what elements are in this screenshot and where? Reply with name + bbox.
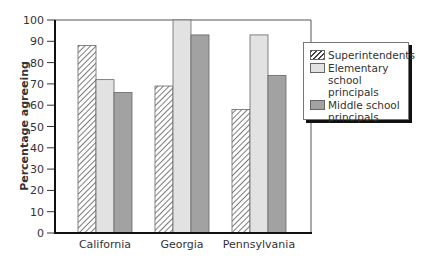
- legend-item-superintendents: Superintendents: [310, 49, 408, 61]
- bar-middle-school-principals-georgia: [191, 35, 209, 233]
- hatched-swatch-icon: [310, 50, 325, 60]
- bar-elementary-school-principals-california: [96, 80, 114, 233]
- bar-elementary-school-principals-georgia: [173, 20, 191, 233]
- dark-gray-swatch-icon: [310, 100, 325, 110]
- light-gray-swatch-icon: [310, 63, 325, 73]
- legend-label: Superintendents: [328, 49, 415, 61]
- bar-middle-school-principals-pennsylvania: [268, 75, 286, 233]
- y-tick-label: 20: [30, 184, 44, 197]
- x-axis-labels: CaliforniaGeorgiaPennsylvania: [79, 238, 295, 251]
- legend-item-middle-principals: Middle school principals: [310, 99, 408, 123]
- x-tick-label: Georgia: [160, 238, 203, 251]
- y-tick-label: 70: [30, 78, 44, 91]
- y-tick-label: 0: [37, 227, 44, 240]
- y-tick-label: 40: [30, 142, 44, 155]
- x-tick-label: Pennsylvania: [223, 238, 295, 251]
- y-tick-label: 100: [23, 14, 44, 27]
- legend-item-elementary-principals: Elementary school principals: [310, 62, 408, 98]
- bar-superintendents-california: [78, 46, 96, 233]
- legend: Superintendents Elementary school princi…: [303, 42, 409, 120]
- bar-superintendents-pennsylvania: [232, 109, 250, 233]
- bar-superintendents-georgia: [155, 86, 173, 233]
- y-tick-label: 10: [30, 206, 44, 219]
- bar-elementary-school-principals-pennsylvania: [250, 35, 268, 233]
- y-tick-label: 50: [30, 121, 44, 134]
- legend-label: Middle school principals: [328, 99, 400, 123]
- plot-area: 0102030405060708090100: [23, 14, 312, 240]
- legend-label: Elementary school principals: [328, 62, 408, 98]
- y-tick-label: 90: [30, 35, 44, 48]
- y-tick-label: 80: [30, 57, 44, 70]
- y-tick-label: 60: [30, 99, 44, 112]
- bar-middle-school-principals-california: [114, 92, 132, 233]
- y-tick-label: 30: [30, 163, 44, 176]
- x-tick-label: California: [79, 238, 131, 251]
- bar-chart: Percentage agreeing 01020304050607080901…: [0, 0, 430, 262]
